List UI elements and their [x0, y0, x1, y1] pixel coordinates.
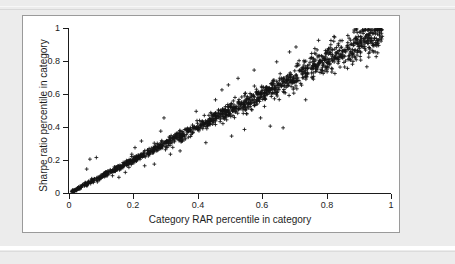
x-axis-line — [68, 193, 391, 194]
x-axis-tick — [198, 194, 199, 199]
x-tick-label: 0.6 — [256, 200, 269, 210]
y-tick-label: 1 — [55, 23, 60, 33]
scatter-plot — [69, 28, 391, 193]
x-tick-label: 0.2 — [127, 200, 140, 210]
x-axis-title: Category RAR percentile in category — [69, 214, 391, 225]
page-background: 1 0.8 0.6 0.4 0.2 0 0 0.2 0.4 0.6 0.8 1 — [0, 0, 455, 264]
x-axis-tick — [327, 194, 328, 199]
x-tick-label: 1 — [388, 200, 393, 210]
page-rule-bottom-2 — [0, 251, 455, 252]
y-tick-label: 0 — [55, 188, 60, 198]
y-tick-label: 0.4 — [47, 122, 60, 132]
page-rule-top-2 — [0, 9, 455, 10]
y-tick-label: 0.2 — [47, 155, 60, 165]
page-rule-top — [0, 6, 455, 7]
y-axis-title: Sharpe ratio percentile in category — [38, 26, 49, 206]
x-axis-tick — [391, 194, 392, 199]
x-axis-tick — [69, 194, 70, 199]
y-tick-label: 0.8 — [47, 56, 60, 66]
x-tick-label: 0.4 — [192, 200, 205, 210]
plot-area — [69, 28, 391, 193]
x-tick-label: 0 — [66, 200, 71, 210]
x-axis-tick — [262, 194, 263, 199]
y-tick-label: 0.6 — [47, 89, 60, 99]
figure-panel: 1 0.8 0.6 0.4 0.2 0 0 0.2 0.4 0.6 0.8 1 — [22, 15, 400, 233]
page-rule-bottom — [0, 246, 455, 250]
x-axis-tick — [133, 194, 134, 199]
x-tick-label: 0.8 — [321, 200, 334, 210]
scatter-points — [70, 28, 384, 193]
